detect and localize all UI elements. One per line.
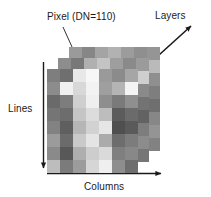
raster-cell <box>86 82 99 95</box>
raster-cell <box>47 121 60 134</box>
raster-cell <box>73 108 86 121</box>
raster-cell <box>47 147 60 160</box>
raster-cell <box>99 160 112 173</box>
raster-cell <box>47 82 60 95</box>
raster-cell <box>47 160 60 173</box>
raster-cell <box>125 134 138 147</box>
raster-cell <box>60 121 73 134</box>
raster-cell <box>112 160 125 173</box>
layers-axis-label: Layers <box>155 10 186 21</box>
raster-cell <box>60 160 73 173</box>
raster-cell <box>125 108 138 121</box>
raster-cell <box>125 95 138 108</box>
raster-cell <box>60 95 73 108</box>
raster-cell <box>125 69 138 82</box>
raster-cell <box>112 108 125 121</box>
raster-cell <box>99 134 112 147</box>
raster-cell <box>60 82 73 95</box>
raster-cell <box>86 160 99 173</box>
raster-cell <box>86 147 99 160</box>
raster-cell <box>86 108 99 121</box>
raster-cell <box>73 121 86 134</box>
raster-cell <box>73 69 86 82</box>
raster-cell <box>112 82 125 95</box>
raster-cell <box>112 121 125 134</box>
raster-cell <box>99 108 112 121</box>
columns-axis-label: Columns <box>84 181 124 192</box>
raster-cell <box>112 69 125 82</box>
raster-cell <box>73 147 86 160</box>
raster-cell <box>47 108 60 121</box>
raster-cell <box>86 134 99 147</box>
raster-cell <box>125 147 138 160</box>
raster-cell <box>73 82 86 95</box>
raster-cell <box>86 121 99 134</box>
raster-cell <box>125 121 138 134</box>
raster-cell <box>112 95 125 108</box>
raster-cell <box>47 69 60 82</box>
raster-cell <box>125 160 138 173</box>
lines-axis-label: Lines <box>8 103 32 114</box>
raster-cell <box>86 69 99 82</box>
raster-cell <box>125 82 138 95</box>
raster-cell <box>99 69 112 82</box>
raster-cell <box>73 95 86 108</box>
raster-cell <box>60 147 73 160</box>
raster-cell <box>60 134 73 147</box>
pixel-callout-label: Pixel (DN=110) <box>47 11 116 22</box>
raster-cell <box>60 108 73 121</box>
raster-cell <box>112 147 125 160</box>
raster-cell <box>99 95 112 108</box>
raster-cell <box>60 69 73 82</box>
raster-cell <box>86 95 99 108</box>
raster-image-cube-diagram: Pixel (DN=110) Layers Lines Columns <box>0 0 211 197</box>
raster-cell <box>47 134 60 147</box>
raster-cell <box>99 147 112 160</box>
raster-cell <box>99 121 112 134</box>
front-layer <box>47 69 138 173</box>
raster-cell <box>112 134 125 147</box>
raster-cell <box>73 134 86 147</box>
raster-cell <box>99 82 112 95</box>
raster-cell <box>73 160 86 173</box>
raster-cell <box>47 95 60 108</box>
